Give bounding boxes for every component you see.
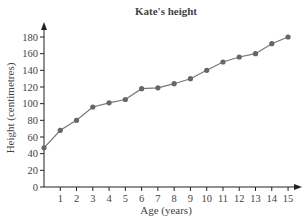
data-point: [220, 59, 225, 64]
x-tick-label: 6: [139, 193, 144, 204]
chart-title: Kate's height: [135, 5, 197, 17]
data-point: [58, 128, 63, 133]
x-tick-label: 3: [90, 193, 95, 204]
data-point: [237, 54, 242, 59]
data-point: [269, 41, 274, 46]
y-tick-label: 180: [22, 32, 38, 43]
y-tick-label: 20: [28, 165, 39, 176]
x-axis-arrow-icon: [294, 184, 302, 190]
chart-canvas: Kate's height 020406080100120140160180 1…: [0, 0, 304, 219]
x-tick-label: 11: [218, 193, 228, 204]
y-tick-label: 160: [22, 48, 38, 59]
x-axis-label: Age (years): [140, 204, 192, 217]
data-point: [90, 104, 95, 109]
y-tick-label: 40: [28, 148, 39, 159]
y-tick-label: 80: [28, 115, 39, 126]
x-tick-label: 7: [155, 193, 160, 204]
x-tick-label: 15: [283, 193, 294, 204]
y-tick-label: 120: [22, 82, 38, 93]
data-point: [188, 76, 193, 81]
y-tick-label: 140: [22, 65, 38, 76]
x-tick-label: 9: [188, 193, 193, 204]
x-tick-label: 8: [172, 193, 177, 204]
data-points: [41, 34, 290, 150]
y-axis-arrow-icon: [41, 22, 47, 30]
data-point: [41, 145, 46, 150]
data-point: [139, 86, 144, 91]
data-point: [253, 51, 258, 56]
x-tick-label: 14: [267, 193, 278, 204]
data-point: [74, 118, 79, 123]
y-tick-label: 0: [33, 182, 38, 193]
data-point: [123, 97, 128, 102]
data-point: [155, 85, 160, 90]
x-tick-label: 13: [250, 193, 261, 204]
line-chart: Kate's height 020406080100120140160180 1…: [0, 0, 304, 219]
x-axis-ticks: 123456789101112131415: [58, 187, 294, 204]
x-tick-label: 2: [74, 193, 79, 204]
x-tick-label: 12: [234, 193, 245, 204]
x-tick-label: 4: [106, 193, 112, 204]
data-point: [285, 34, 290, 39]
x-tick-label: 5: [123, 193, 128, 204]
y-tick-label: 100: [22, 98, 38, 109]
data-point: [204, 68, 209, 73]
x-tick-label: 1: [58, 193, 63, 204]
x-tick-label: 10: [201, 193, 212, 204]
data-line: [44, 37, 288, 148]
data-point: [172, 81, 177, 86]
data-point: [106, 100, 111, 105]
y-axis-ticks: 020406080100120140160180: [22, 32, 44, 193]
y-axis-label: Height (centimetres): [4, 62, 17, 153]
y-tick-label: 60: [28, 132, 39, 143]
